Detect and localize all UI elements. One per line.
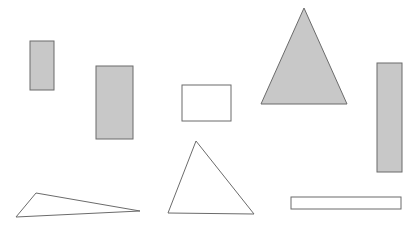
gray-triangle-large	[261, 8, 347, 104]
white-triangle-medium	[168, 141, 254, 214]
white-rectangle-square	[182, 85, 231, 121]
gray-rectangle-small	[30, 41, 54, 90]
white-rectangle-wide	[291, 197, 401, 209]
white-triangle-flat	[16, 193, 140, 217]
gray-rectangle-medium	[96, 66, 133, 139]
gray-rectangle-tall	[377, 63, 402, 172]
shapes-canvas	[0, 0, 408, 230]
